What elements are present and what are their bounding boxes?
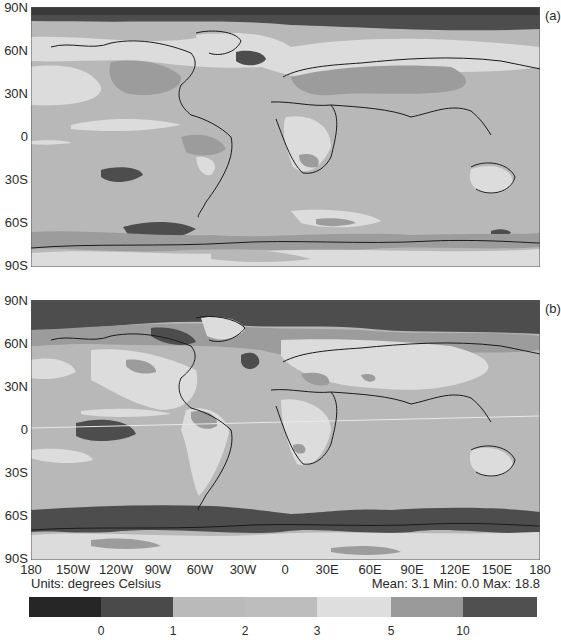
x-label-150e: 150E <box>482 562 512 577</box>
x-label-180e: 180 <box>529 562 551 577</box>
y-label-60s-a: 60S <box>2 216 28 229</box>
stats-label: Mean: 3.1 Min: 0.0 Max: 18.8 <box>372 576 540 591</box>
x-label-90w: 90W <box>145 562 172 577</box>
colorbar-tick-10: 10 <box>456 624 469 638</box>
map-panel-a <box>31 7 540 267</box>
y-label-0-b: 0 <box>2 423 28 436</box>
colorbar-seg-3 <box>173 597 245 617</box>
y-label-60n-a: 60N <box>2 44 28 57</box>
colorbar-tick-1: 1 <box>170 624 177 638</box>
panel-label-a: (a) <box>545 8 561 23</box>
x-label-120e: 120E <box>440 562 470 577</box>
y-label-60n-b: 60N <box>2 337 28 350</box>
x-label-90e: 90E <box>400 562 423 577</box>
x-label-30e: 30E <box>315 562 338 577</box>
x-label-120w: 120W <box>99 562 133 577</box>
colorbar-tick-0: 0 <box>98 624 105 638</box>
colorbar-seg-7 <box>463 597 537 617</box>
y-label-60s-b: 60S <box>2 509 28 522</box>
colorbar-tick-5: 5 <box>388 624 395 638</box>
colorbar-tick-3: 3 <box>314 624 321 638</box>
colorbar-seg-1 <box>29 597 101 617</box>
y-label-30s-b: 30S <box>2 466 28 479</box>
panel-label-b: (b) <box>545 301 561 316</box>
x-label-0: 0 <box>281 562 288 577</box>
x-label-60w: 60W <box>187 562 214 577</box>
colorbar <box>29 597 537 617</box>
map-panel-b <box>31 300 540 560</box>
y-label-30s-a: 30S <box>2 173 28 186</box>
x-label-150w: 150W <box>56 562 90 577</box>
y-label-30n-a: 30N <box>2 87 28 100</box>
y-label-0-a: 0 <box>2 130 28 143</box>
map-b-graphic <box>31 300 540 560</box>
y-label-90n-a: 90N <box>2 1 28 14</box>
colorbar-seg-2 <box>101 597 173 617</box>
x-label-180w: 180 <box>20 562 42 577</box>
y-label-90n-b: 90N <box>2 294 28 307</box>
units-label: Units: degrees Celsius <box>31 576 161 591</box>
x-label-30w: 30W <box>230 562 257 577</box>
colorbar-tick-2: 2 <box>242 624 249 638</box>
colorbar-seg-5 <box>317 597 391 617</box>
colorbar-seg-6 <box>391 597 463 617</box>
x-label-60e: 60E <box>358 562 381 577</box>
colorbar-seg-4 <box>245 597 317 617</box>
y-label-30n-b: 30N <box>2 380 28 393</box>
map-a-graphic <box>31 7 540 267</box>
y-label-90s-a: 90S <box>2 259 28 272</box>
